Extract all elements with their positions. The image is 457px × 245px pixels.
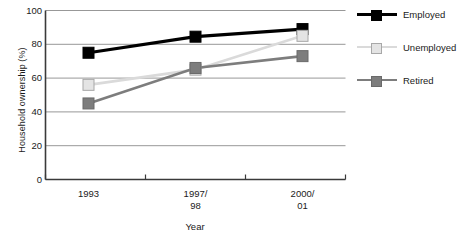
data-point-marker — [83, 79, 94, 90]
legend-item-unemployed[interactable]: Unemployed — [358, 41, 457, 55]
series-markers — [83, 24, 308, 109]
legend-swatch-icon — [357, 74, 397, 88]
legend-item-employed[interactable]: Employed — [358, 8, 457, 22]
chart-figure: Household ownership (%) 020406080100 199… — [0, 0, 457, 245]
data-point-marker — [190, 62, 201, 73]
y-tick-label: 0 — [16, 175, 42, 185]
data-point-marker — [297, 30, 308, 41]
chart-legend: EmployedUnemployedRetired — [358, 8, 457, 107]
x-tick-label: 1993 — [49, 188, 129, 200]
legend-label: Retired — [403, 75, 434, 86]
legend-marker-icon — [371, 76, 382, 87]
data-point-marker — [83, 98, 94, 109]
data-point-marker — [83, 47, 94, 58]
x-tick-label: 2000/ 01 — [263, 188, 343, 211]
y-tick-label: 20 — [16, 141, 42, 151]
y-tick-label: 40 — [16, 107, 42, 117]
x-axis-title: Year — [155, 221, 235, 232]
legend-marker-icon — [371, 10, 382, 21]
legend-swatch-icon — [357, 8, 397, 22]
y-tick-label: 60 — [16, 73, 42, 83]
data-point-marker — [190, 31, 201, 42]
y-tick-label: 80 — [16, 39, 42, 49]
data-point-marker — [297, 51, 308, 62]
legend-label: Unemployed — [403, 42, 456, 53]
x-tick-label: 1997/ 98 — [156, 188, 236, 211]
legend-label: Employed — [403, 9, 445, 20]
legend-item-retired[interactable]: Retired — [358, 74, 457, 88]
y-axis-tick-labels: 020406080100 — [14, 0, 42, 245]
y-tick-label: 100 — [16, 6, 42, 16]
legend-swatch-icon — [357, 41, 397, 55]
legend-marker-icon — [371, 43, 382, 54]
